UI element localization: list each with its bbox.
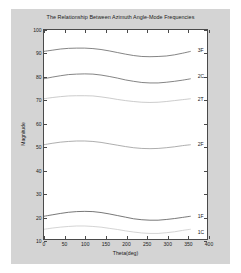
- y-axis-tick: [204, 218, 207, 219]
- x-axis-tick: [127, 30, 128, 33]
- x-axis-tick-label: 300: [164, 241, 172, 247]
- x-axis-tick-label: 50: [62, 241, 68, 247]
- curve-2t: [44, 96, 191, 103]
- x-axis-tick-label: 0: [43, 241, 46, 247]
- matlab-figure-window: The Relationship Between Azimuth Angle-M…: [11, 9, 230, 264]
- x-axis-tick-label: 400: [205, 241, 213, 247]
- y-axis-tick: [204, 30, 207, 31]
- curve-label-1c: 1C: [198, 229, 204, 235]
- y-axis-tick-label: 40: [36, 168, 42, 174]
- x-axis-tick: [147, 30, 148, 33]
- x-axis-tick: [209, 236, 210, 239]
- x-axis-tick: [147, 236, 148, 239]
- y-axis-tick-label: 10: [36, 238, 42, 244]
- y-axis-tick: [204, 77, 207, 78]
- curve-label-2f: 2F: [198, 141, 204, 147]
- curve-1c: [44, 226, 191, 234]
- plot-inner: 1020304050607080901000501001502002503003…: [44, 30, 207, 239]
- y-axis-tick: [204, 171, 207, 172]
- curve-label-2t: 2T: [198, 96, 204, 102]
- x-axis-tick-label: 100: [81, 241, 89, 247]
- x-axis-tick: [44, 30, 45, 33]
- x-axis-tick: [127, 236, 128, 239]
- x-axis-tick: [168, 236, 169, 239]
- y-axis-tick-label: 70: [36, 97, 42, 103]
- y-axis-tick: [204, 53, 207, 54]
- y-axis-tick-label: 100: [33, 27, 41, 33]
- y-axis-tick: [44, 171, 47, 172]
- y-axis-tick: [204, 124, 207, 125]
- curve-2f: [44, 141, 191, 149]
- y-axis-tick: [44, 194, 47, 195]
- y-axis-tick-label: 30: [36, 191, 42, 197]
- x-axis-tick-label: 150: [102, 241, 110, 247]
- curve-label-1f: 1F: [198, 213, 204, 219]
- curve-label-2c: 2C: [198, 73, 204, 79]
- chart-title: The Relationship Between Azimuth Angle-M…: [11, 14, 230, 21]
- x-axis-tick: [188, 236, 189, 239]
- x-axis-tick: [188, 30, 189, 33]
- curve-3f: [44, 48, 191, 57]
- y-axis-tick: [44, 124, 47, 125]
- y-axis-tick-label: 20: [36, 215, 42, 221]
- y-axis-tick-label: 50: [36, 144, 42, 150]
- x-axis-tick: [44, 236, 45, 239]
- plot-area: 1020304050607080901000501001502002503003…: [43, 29, 208, 240]
- x-axis-tick: [168, 30, 169, 33]
- y-axis-tick: [44, 218, 47, 219]
- curve-2c: [44, 74, 191, 83]
- x-axis-tick: [106, 30, 107, 33]
- x-axis-tick: [106, 236, 107, 239]
- y-axis-tick: [204, 194, 207, 195]
- y-axis-tick: [44, 53, 47, 54]
- x-axis-tick: [209, 30, 210, 33]
- y-axis-tick-label: 80: [36, 74, 42, 80]
- y-axis-title: Magnitude: [20, 122, 26, 145]
- x-axis-tick: [65, 236, 66, 239]
- y-axis-tick-label: 60: [36, 121, 42, 127]
- y-axis-tick: [44, 100, 47, 101]
- y-axis-tick-label: 90: [36, 50, 42, 56]
- y-axis-tick: [44, 147, 47, 148]
- curve-1f: [44, 211, 191, 220]
- x-axis-title: Theta(deg): [43, 250, 208, 256]
- curve-label-3f: 3F: [198, 47, 204, 53]
- data-curves: [44, 30, 207, 239]
- x-axis-tick-label: 250: [143, 241, 151, 247]
- y-axis-tick: [44, 77, 47, 78]
- x-axis-tick: [85, 30, 86, 33]
- x-axis-tick-label: 200: [122, 241, 130, 247]
- figure-background: The Relationship Between Azimuth Angle-M…: [11, 9, 230, 264]
- x-axis-tick-label: 350: [184, 241, 192, 247]
- x-axis-tick: [85, 236, 86, 239]
- x-axis-tick: [65, 30, 66, 33]
- y-axis-tick: [204, 100, 207, 101]
- y-axis-tick: [204, 147, 207, 148]
